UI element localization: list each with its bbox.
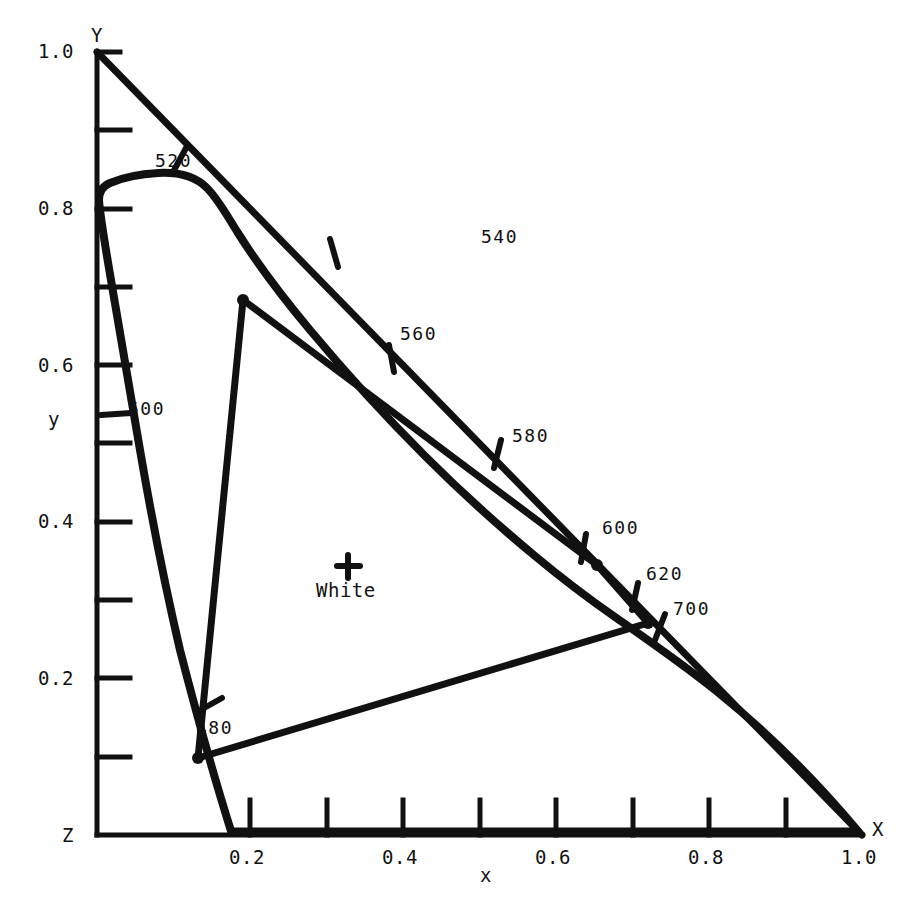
y-tick-label-0_8: 0.8 (38, 199, 74, 218)
y-tick-label-0_6: 0.6 (38, 356, 74, 375)
wave-tick-540 (330, 239, 338, 267)
origin-letter-z: Z (62, 826, 73, 845)
x-tick-label-0_2: 0.2 (229, 848, 265, 867)
white-point-label: White (316, 581, 376, 600)
y-axis-name: y (48, 410, 59, 429)
x-tick-label-0_8: 0.8 (688, 848, 724, 867)
gamut-vertex-green (237, 294, 249, 306)
wavelength-tick-marks (101, 148, 665, 712)
y-axis-letter: Y (91, 26, 102, 45)
gamut-vertex-blue (192, 752, 204, 764)
chromaticity-diagram-page: Y X Z x y 1.0 0.8 0.6 0.4 0.2 0.2 0.4 0.… (0, 0, 921, 907)
wavelength-label-560: 560 (400, 325, 437, 343)
device-gamut-polygon (192, 294, 654, 764)
wavelength-label-500: 500 (128, 400, 165, 418)
x-tick-label-0_4: 0.4 (382, 848, 418, 867)
y-axis-ticks (97, 52, 130, 757)
wavelength-label-520: 520 (155, 152, 192, 170)
wavelength-label-700: 700 (673, 600, 710, 618)
y-tick-label-0_2: 0.2 (38, 669, 74, 688)
white-point-marker (337, 555, 360, 578)
wavelength-label-580: 580 (512, 427, 549, 445)
wavelength-label-600: 600 (602, 519, 639, 537)
wavelength-label-480: 480 (196, 719, 233, 737)
wavelength-label-620: 620 (646, 565, 683, 583)
x-axis-name: x (480, 866, 491, 885)
gamut-vertex-red (591, 559, 603, 571)
y-tick-label-0_4: 0.4 (38, 512, 74, 531)
wave-tick-560 (389, 345, 394, 372)
x-axis-letter: X (872, 820, 883, 839)
y-tick-label-1_0: 1.0 (38, 42, 74, 61)
wavelength-label-540: 540 (481, 228, 518, 246)
x-tick-label-1_0: 1.0 (841, 848, 877, 867)
gamut-vertex-orange (642, 617, 654, 629)
chromaticity-diagram-svg (0, 0, 921, 907)
wave-tick-500 (101, 413, 131, 415)
x-tick-label-0_6: 0.6 (535, 848, 571, 867)
